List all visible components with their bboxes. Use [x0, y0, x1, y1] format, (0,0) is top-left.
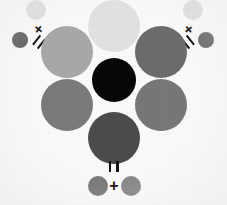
bottom-center-result-circle	[88, 112, 140, 164]
equation-right-plus-symbol: +	[180, 21, 197, 37]
equation-right-operand-small-circle	[198, 32, 214, 48]
equation-right-operand-light-circle	[183, 0, 203, 20]
color-mixing-diagram: + + +	[0, 0, 227, 205]
equation-bottom-plus-symbol: +	[109, 178, 118, 194]
top-left-primary-circle	[41, 26, 93, 78]
bottom-right-primary-circle	[135, 79, 187, 131]
equation-bottom-operand-left-circle	[88, 176, 108, 196]
center-black-circle	[92, 58, 136, 102]
equation-bottom-operand-right-circle	[121, 176, 141, 196]
equation-left-operand-small-circle	[12, 32, 28, 48]
top-center-primary-circle	[88, 0, 140, 52]
equals-bar-left	[117, 161, 119, 172]
bottom-left-primary-circle	[41, 79, 93, 131]
top-right-primary-circle	[135, 26, 187, 78]
equation-left-operand-light-circle	[26, 0, 46, 20]
